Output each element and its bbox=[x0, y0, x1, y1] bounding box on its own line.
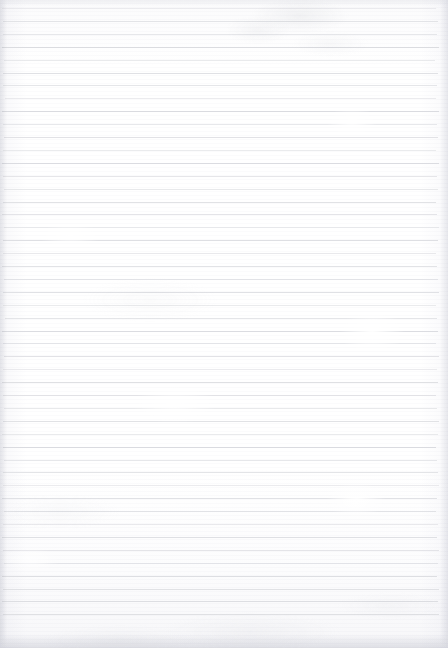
rule-line bbox=[2, 434, 438, 435]
ruled-lines-layer bbox=[0, 0, 448, 648]
rule-line bbox=[3, 485, 439, 486]
rule-line bbox=[2, 382, 438, 383]
rule-line bbox=[3, 550, 439, 551]
rule-line bbox=[4, 60, 435, 61]
rule-line bbox=[2, 214, 437, 215]
rule-line bbox=[2, 47, 439, 48]
rule-line bbox=[3, 150, 436, 151]
rule-line bbox=[3, 305, 436, 306]
rule-line bbox=[4, 227, 439, 228]
rule-line bbox=[2, 111, 439, 112]
rule-line bbox=[3, 124, 437, 125]
rule-line bbox=[3, 292, 439, 293]
rule-line bbox=[3, 472, 438, 473]
rule-line bbox=[3, 73, 438, 74]
rule-line bbox=[3, 614, 439, 615]
rule-line bbox=[3, 202, 436, 203]
rule-line bbox=[2, 331, 438, 332]
rule-line bbox=[4, 408, 437, 409]
rule-line bbox=[3, 343, 436, 344]
rule-line bbox=[3, 369, 437, 370]
rule-line bbox=[2, 537, 437, 538]
rule-line bbox=[3, 240, 438, 241]
rule-line bbox=[3, 176, 437, 177]
rule-line bbox=[5, 318, 437, 319]
rule-line bbox=[4, 356, 439, 357]
rule-line bbox=[2, 8, 436, 9]
rule-line bbox=[4, 189, 438, 190]
rule-line bbox=[3, 34, 437, 35]
rule-line bbox=[2, 163, 439, 164]
rule-line bbox=[3, 21, 438, 22]
rule-line bbox=[2, 601, 438, 602]
rule-line bbox=[4, 137, 438, 138]
rule-line bbox=[4, 563, 438, 564]
rule-line bbox=[3, 253, 436, 254]
rule-line bbox=[3, 85, 437, 86]
rule-line bbox=[2, 498, 437, 499]
scanned-page bbox=[0, 0, 448, 648]
rule-line bbox=[3, 395, 436, 396]
rule-line bbox=[3, 589, 439, 590]
rule-line bbox=[5, 98, 436, 99]
rule-line bbox=[3, 421, 439, 422]
rule-line bbox=[4, 460, 437, 461]
rule-line bbox=[2, 266, 437, 267]
rule-line bbox=[3, 447, 436, 448]
rule-line bbox=[3, 524, 438, 525]
rule-line bbox=[2, 576, 437, 577]
rule-line bbox=[4, 279, 438, 280]
rule-line bbox=[4, 511, 436, 512]
